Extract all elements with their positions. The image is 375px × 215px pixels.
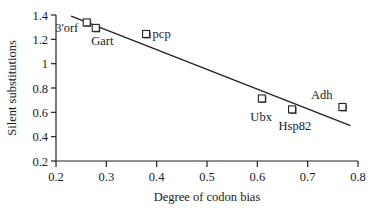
x-tick-label: 0.7 [300,170,316,184]
y-tick-label: 1.2 [32,33,48,47]
x-tick-label: 0.5 [199,170,215,184]
square-marker-icon [143,30,150,37]
y-tick-label: 0.4 [32,130,48,144]
x-tick-label: 0.8 [350,170,366,184]
data-points: 3'orfGartpcpUbxHsp82Adh [55,19,347,133]
x-tick-label: 0.3 [99,170,115,184]
point-label: Gart [91,34,114,48]
y-axis: 0.20.40.60.811.21.4 [32,9,56,169]
point-label: pcp [153,27,171,41]
x-axis-title: Degree of codon bias [154,190,261,204]
y-tick-label: 1 [42,57,48,71]
y-tick-label: 0.2 [32,155,48,169]
x-tick-label: 0.4 [149,170,165,184]
data-point: 3'orf [55,19,91,35]
point-label: Adh [311,88,333,102]
square-marker-icon [83,19,90,26]
x-tick-label: 0.6 [250,170,266,184]
scatter-chart: 0.20.40.60.811.21.4 0.20.30.40.50.60.70.… [0,0,375,215]
square-marker-icon [258,95,265,102]
square-marker-icon [339,103,346,110]
point-label: Ubx [250,110,272,124]
y-axis-title: Silent substitutions [5,40,19,136]
data-point: Adh [311,88,347,111]
data-point: Hsp82 [279,106,312,133]
square-marker-icon [289,106,296,113]
data-point: Ubx [250,95,272,124]
regression-line [71,16,350,126]
square-marker-icon [92,24,99,31]
point-label: 3'orf [55,21,79,35]
y-tick-label: 0.8 [32,82,48,96]
x-tick-label: 0.2 [48,170,64,184]
y-tick-label: 1.4 [32,9,48,23]
point-label: Hsp82 [279,119,312,133]
trendline [71,16,350,126]
y-tick-label: 0.6 [32,106,48,120]
x-axis: 0.20.30.40.50.60.70.8 [48,161,366,184]
data-point: pcp [143,27,171,41]
